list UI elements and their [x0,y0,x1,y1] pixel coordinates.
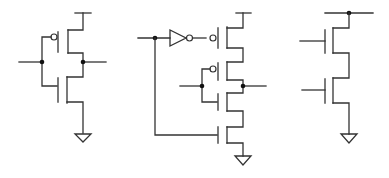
output-node [241,84,246,89]
circuit-inverter [19,13,106,142]
circuit-nand-inverted-input [138,13,266,165]
gate-wire [42,37,57,86]
nmos-transistor [58,62,83,133]
ground-icon [341,134,357,143]
circuit-nmos-stack [300,11,373,143]
output-node [81,60,86,65]
pmos-transistor-2 [210,62,243,93]
nmos-transistor-1 [300,13,349,78]
input-b-node [200,84,205,89]
inversion-bubble-icon [51,34,57,40]
input-node [40,60,45,65]
pmos-transistor-1 [210,13,243,62]
inversion-bubble-icon [210,66,216,72]
nmos-transistor-1 [218,93,243,127]
inversion-bubble-icon [210,35,216,41]
ground-icon [235,156,251,165]
nmos-transistor-2 [302,78,349,134]
inverter-gate-icon [170,30,193,46]
pmos-transistor [51,13,83,62]
ground-icon [75,134,91,142]
input-b-gate-wire [202,69,217,102]
nmos-transistor-2 [218,127,243,156]
schematic-canvas [0,0,389,178]
